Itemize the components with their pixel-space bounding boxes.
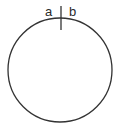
diagram-canvas: a b: [0, 0, 119, 130]
circle-diagram: a b: [0, 0, 119, 130]
circle: [8, 18, 112, 122]
label-b: b: [69, 4, 76, 19]
label-a: a: [45, 4, 53, 19]
